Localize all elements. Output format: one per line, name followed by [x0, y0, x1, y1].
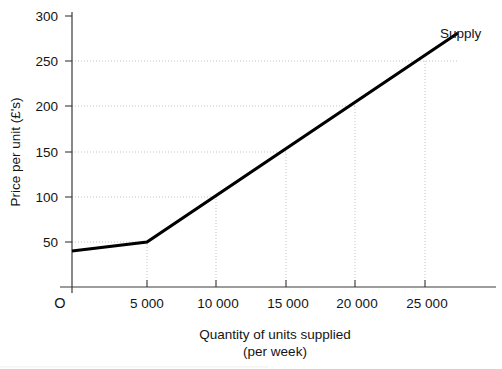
- caption-line-2: (per week): [243, 344, 307, 359]
- y-tick-label-200: 200: [35, 99, 58, 114]
- x-tick-marks: [147, 280, 425, 287]
- supply-curve: [72, 33, 458, 251]
- y-tick-label-150: 150: [35, 145, 58, 160]
- y-axis-title: Price per unit (£'s): [8, 97, 23, 206]
- y-tick-label-100: 100: [35, 190, 58, 205]
- horizontal-gridlines: [72, 61, 458, 242]
- y-tick-label-50: 50: [43, 235, 58, 250]
- supply-curve-label: Supply: [440, 26, 482, 41]
- x-tick-label-5000: 5 000: [130, 296, 164, 311]
- y-tick-label-300: 300: [35, 9, 58, 24]
- x-tick-labels: 5 000 10 000 15 000 20 000 25 000: [130, 296, 448, 311]
- x-tick-label-10000: 10 000: [197, 296, 238, 311]
- vertical-gridlines: [147, 61, 425, 287]
- x-tick-label-25000: 25 000: [406, 296, 447, 311]
- scan-artifact-strip: [0, 367, 268, 368]
- origin-label: O: [54, 295, 65, 311]
- x-axis-caption: Quantity of units supplied (per week): [199, 327, 351, 359]
- y-tick-label-250: 250: [35, 54, 58, 69]
- chart-svg: 300 250 200 150 100 50 5 000 10 000 15 0…: [0, 0, 502, 369]
- x-tick-label-15000: 15 000: [267, 296, 308, 311]
- caption-line-1: Quantity of units supplied: [199, 327, 351, 342]
- supply-curve-figure: 300 250 200 150 100 50 5 000 10 000 15 0…: [0, 0, 502, 369]
- y-tick-marks: [65, 16, 72, 242]
- x-tick-label-20000: 20 000: [336, 296, 377, 311]
- y-tick-labels: 300 250 200 150 100 50: [35, 9, 58, 250]
